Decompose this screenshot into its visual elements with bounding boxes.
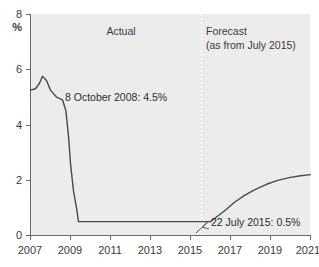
annotation-label-jul-2015: 22 July 2015: 0.5% [211,216,300,228]
y-axis-unit-label: % [12,21,22,33]
x-tick-label-2011: 2011 [98,244,122,256]
x-tick-label-2021: 2021 [296,244,319,256]
x-tick-label-2019: 2019 [258,244,282,256]
y-tick-label-4: 4 [16,119,22,131]
interest-rate-chart: 8 6 4 2 0 % 2007 2009 2011 2013 2015 201… [0,0,319,267]
y-tick-label-0: 0 [16,229,22,241]
annotation-label-oct-2008: 8 October 2008: 4.5% [65,91,167,103]
region-label-forecast-date: (as from July 2015) [206,39,296,51]
y-tick-label-2: 2 [16,174,22,186]
y-tick-label-6: 6 [16,63,22,75]
region-label-forecast: Forecast [206,25,247,37]
x-tick-label-2007: 2007 [18,244,42,256]
x-tick-label-2013: 2013 [138,244,162,256]
x-tick-label-2009: 2009 [58,244,82,256]
x-tick-label-2015: 2015 [178,244,202,256]
x-tick-label-2017: 2017 [218,244,242,256]
y-tick-label-8: 8 [16,8,22,20]
region-label-actual: Actual [106,25,135,37]
chart-canvas: 8 6 4 2 0 % 2007 2009 2011 2013 2015 201… [0,0,319,267]
